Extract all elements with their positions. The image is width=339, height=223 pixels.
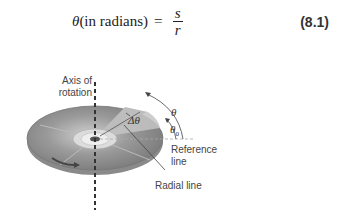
reference-line-label-line1: Reference <box>171 144 217 156</box>
axis-label: Axis of rotation <box>68 75 92 99</box>
reference-line-label-line2: line <box>171 156 217 168</box>
radial-line-label: Radial line <box>155 180 202 192</box>
theta-zero-label: θ0 <box>170 123 179 140</box>
theta-arrowhead <box>145 92 151 97</box>
axis-label-line1: Axis of <box>58 75 92 87</box>
delta-theta-label: Δθ <box>128 114 140 126</box>
theta-label: θ <box>171 106 176 118</box>
reference-line-label: Reference line <box>171 144 217 168</box>
theta-zero-subscript: 0 <box>175 130 179 138</box>
axis-label-line2: rotation <box>52 87 92 99</box>
